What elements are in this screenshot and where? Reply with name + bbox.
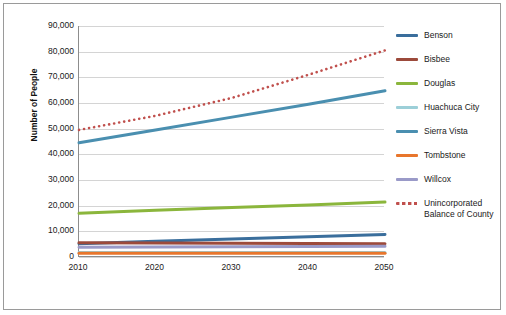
legend-swatch-icon bbox=[396, 58, 418, 61]
legend-label: Benson bbox=[424, 30, 500, 41]
y-axis-tick-label: 0 bbox=[28, 252, 74, 261]
y-axis-tick-label: 40,000 bbox=[28, 149, 74, 158]
x-axis-tick-label: 2050 bbox=[364, 262, 404, 272]
x-axis-tick-labels: 20102020203020402050 bbox=[78, 257, 384, 273]
legend-swatch-icon bbox=[396, 178, 418, 181]
series-line bbox=[79, 202, 385, 213]
series-line bbox=[79, 91, 385, 143]
legend-item[interactable]: Sierra Vista bbox=[396, 126, 500, 137]
legend-label: Unincorporated Balance of County bbox=[424, 198, 500, 220]
legend-swatch-icon bbox=[396, 202, 418, 205]
x-axis-tick-label: 2030 bbox=[211, 262, 251, 272]
legend-swatch-icon bbox=[396, 34, 418, 37]
legend-label: Douglas bbox=[424, 78, 500, 89]
y-axis-tick-label: 10,000 bbox=[28, 226, 74, 235]
legend-item[interactable]: Douglas bbox=[396, 78, 500, 89]
series-lines bbox=[79, 26, 385, 257]
x-axis-tick-label: 2010 bbox=[58, 262, 98, 272]
legend-item[interactable]: Unincorporated Balance of County bbox=[396, 198, 500, 209]
chart-container: Number of People 010,00020,00030,00040,0… bbox=[3, 3, 501, 310]
y-axis-tick-label: 30,000 bbox=[28, 175, 74, 184]
x-axis-tick-label: 2040 bbox=[288, 262, 328, 272]
chart-legend: BensonBisbeeDouglasHuachuca CitySierra V… bbox=[396, 30, 500, 222]
legend-swatch-icon bbox=[396, 154, 418, 157]
legend-label: Huachuca City bbox=[424, 102, 500, 113]
legend-label: Tombstone bbox=[424, 150, 500, 161]
y-axis-tick-label: 80,000 bbox=[28, 47, 74, 56]
y-axis-tick-label: 70,000 bbox=[28, 72, 74, 81]
legend-item[interactable]: Huachuca City bbox=[396, 102, 500, 113]
x-axis-tick-label: 2020 bbox=[135, 262, 175, 272]
legend-item[interactable]: Benson bbox=[396, 30, 500, 41]
y-axis-tick-labels: 010,00020,00030,00040,00050,00060,00070,… bbox=[26, 26, 74, 257]
y-axis-tick-label: 50,000 bbox=[28, 124, 74, 133]
legend-label: Sierra Vista bbox=[424, 126, 500, 137]
legend-label: Bisbee bbox=[424, 54, 500, 65]
y-axis-tick-label: 60,000 bbox=[28, 98, 74, 107]
series-line bbox=[79, 243, 385, 244]
plot-area bbox=[78, 26, 384, 257]
series-line bbox=[79, 246, 385, 247]
legend-swatch-icon bbox=[396, 82, 418, 85]
legend-swatch-icon bbox=[396, 106, 418, 109]
legend-item[interactable]: Bisbee bbox=[396, 54, 500, 65]
legend-item[interactable]: Tombstone bbox=[396, 150, 500, 161]
y-axis-tick-label: 90,000 bbox=[28, 21, 74, 30]
legend-item[interactable]: Willcox bbox=[396, 174, 500, 185]
y-axis-tick-label: 20,000 bbox=[28, 201, 74, 210]
legend-label: Willcox bbox=[424, 174, 500, 185]
legend-swatch-icon bbox=[396, 130, 418, 133]
